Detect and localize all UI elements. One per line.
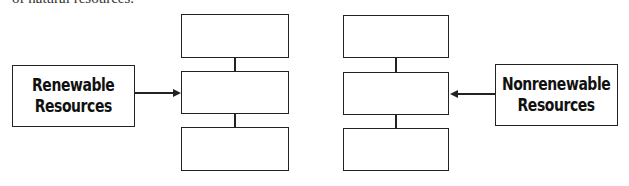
left-column-connector-2 <box>234 114 236 127</box>
right-column-box-top[interactable] <box>343 15 449 58</box>
nonrenewable-resources-box: Nonrenewable Resources <box>495 64 618 126</box>
left-column-connector-1 <box>234 58 236 71</box>
right-column-connector-2 <box>395 115 397 128</box>
right-arrow-line <box>458 93 495 95</box>
left-column-box-middle[interactable] <box>181 71 289 114</box>
right-arrowhead-icon <box>450 90 458 98</box>
right-column-box-bottom[interactable] <box>343 128 449 171</box>
renewable-resources-label: Renewable Resources <box>32 75 114 117</box>
left-arrowhead-icon <box>173 89 181 97</box>
left-column-box-top[interactable] <box>181 14 289 58</box>
left-column-box-bottom[interactable] <box>181 127 289 171</box>
clipped-header-text: of natural resources. <box>12 0 134 7</box>
right-column-box-middle[interactable] <box>343 72 449 115</box>
left-arrow-line <box>135 92 173 94</box>
renewable-resources-box: Renewable Resources <box>12 65 135 127</box>
nonrenewable-resources-label: Nonrenewable Resources <box>502 74 610 116</box>
right-column-connector-1 <box>395 58 397 72</box>
